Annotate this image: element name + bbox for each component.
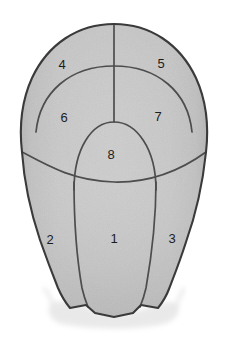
region-label-7: 7: [154, 109, 161, 124]
region-label-6: 6: [60, 110, 67, 125]
region-label-2: 2: [46, 232, 53, 247]
region-label-5: 5: [157, 56, 164, 71]
region-label-8: 8: [107, 147, 114, 162]
region-label-1: 1: [110, 231, 117, 246]
figure-container: 1 2 3 4 5 6 7 8: [0, 0, 228, 338]
region-label-4: 4: [58, 57, 65, 72]
anatomical-diagram: 1 2 3 4 5 6 7 8: [0, 0, 228, 338]
region-label-3: 3: [168, 231, 175, 246]
